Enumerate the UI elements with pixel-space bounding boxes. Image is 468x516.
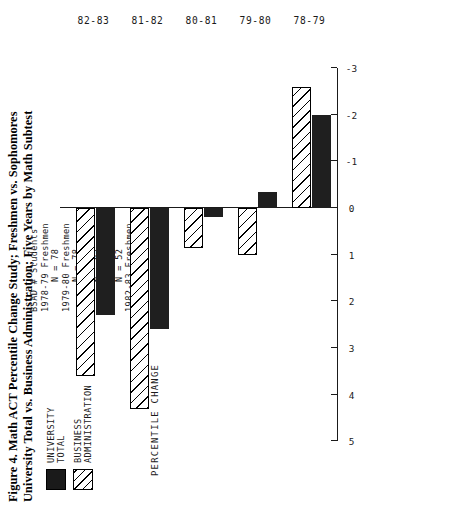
axis-tick [331,441,337,442]
bar-university-total [150,208,169,329]
axis-tick [331,300,337,301]
category-label-81-82: 81-82 [122,14,174,25]
axis-tick-label: 4 [339,389,365,400]
axis-tick [331,67,337,68]
axis-tick [331,394,337,395]
axis-tick [331,347,337,348]
axis-tick-label: 0 [339,203,365,214]
axis-tick [331,254,337,255]
bar-university-total [96,208,115,315]
axis-tick-label: -2 [339,109,365,120]
axis-tick-label: 3 [339,343,365,354]
category-label-79-80: 79-80 [230,14,282,25]
value-axis-title: PERCENTILE CHANGE [150,364,160,476]
axis-tick-label: 1 [339,249,365,260]
axis-tick-label: 2 [339,296,365,307]
bar-university-total [258,192,277,208]
axis-tick-label: 5 [339,436,365,447]
bar-university-total [312,115,331,208]
axis-tick [331,160,337,161]
bar-business-administration [130,208,149,409]
axis-tick-label: -1 [339,156,365,167]
category-label-78-79: 78-79 [284,14,336,25]
bar-business-administration [76,208,95,376]
bar-business-administration [238,208,257,255]
figure-canvas: Figure 4. Math ACT Percentile Change Stu… [0,0,468,516]
bar-business-administration [292,87,311,208]
category-label-80-81: 80-81 [176,14,228,25]
bar-university-total [204,208,223,217]
bar-chart: PERCENTILE CHANGE 543210-1-2-3 78-7979-8… [0,0,468,516]
category-label-82-83: 82-83 [68,14,120,25]
bar-business-administration [184,208,203,248]
axis-tick-label: -3 [339,62,365,73]
axis-tick [331,114,337,115]
